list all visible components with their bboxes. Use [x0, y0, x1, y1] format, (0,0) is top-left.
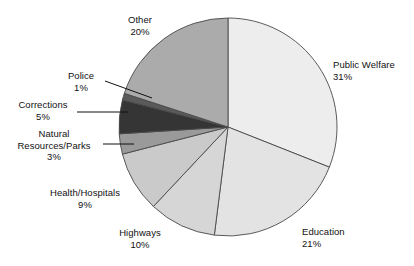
- pie-slices-group: [119, 18, 337, 236]
- slice-label-name: Highways: [100, 227, 180, 239]
- slice-label-name: Public Welfare: [333, 59, 395, 71]
- slice-label-education: Education 21%: [302, 226, 345, 249]
- slice-label-public-welfare: Public Welfare 31%: [333, 59, 395, 82]
- slice-label-value: 1%: [58, 82, 104, 94]
- slice-label-name: Police: [58, 70, 104, 82]
- slice-label-corrections: Corrections 5%: [8, 99, 78, 122]
- slice-label-name: Education: [302, 226, 345, 238]
- slice-label-value: 10%: [100, 239, 180, 251]
- slice-label-value: 31%: [333, 71, 395, 83]
- slice-label-name-line1: Natural: [6, 128, 102, 140]
- slice-label-highways: Highways 10%: [100, 227, 180, 250]
- slice-label-name: Corrections: [8, 99, 78, 111]
- slice-label-police: Police 1%: [58, 70, 104, 93]
- pie-chart: Public Welfare 31% Education 21% Highway…: [0, 0, 414, 266]
- slice-label-value: 5%: [8, 111, 78, 123]
- slice-label-value: 20%: [118, 26, 162, 38]
- slice-label-natural-resources-parks: Natural Resources/Parks 3%: [6, 128, 102, 163]
- slice-label-name: Other: [118, 14, 162, 26]
- slice-label-health-hospitals: Health/Hospitals 9%: [36, 187, 134, 210]
- slice-label-other: Other 20%: [118, 14, 162, 37]
- slice-label-value: 9%: [36, 199, 134, 211]
- slice-label-name: Health/Hospitals: [36, 187, 134, 199]
- slice-label-value: 21%: [302, 238, 345, 250]
- slice-label-value: 3%: [6, 151, 102, 163]
- slice-label-name-line2: Resources/Parks: [6, 140, 102, 152]
